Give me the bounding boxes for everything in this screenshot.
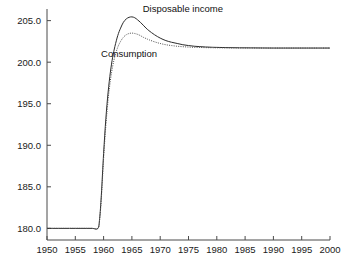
y-tick-label: 195.0 [17, 98, 41, 109]
x-tick-label: 1990 [263, 244, 284, 255]
series-line-disposable-income [47, 17, 330, 229]
y-tick-label: 185.0 [17, 181, 41, 192]
x-tick-label: 2000 [319, 244, 340, 255]
y-tick-label: 205.0 [17, 15, 41, 26]
x-tick-label: 1985 [235, 244, 256, 255]
chart-container: 180.0185.0190.0195.0200.0205.0 195019551… [0, 0, 349, 269]
y-tick-label: 190.0 [17, 140, 41, 151]
annotation-label: Disposable income [143, 3, 223, 14]
y-axis-tick-labels: 180.0185.0190.0195.0200.0205.0 [17, 15, 41, 234]
x-tick-label: 1950 [36, 244, 57, 255]
y-tick-label: 200.0 [17, 57, 41, 68]
line-chart: 180.0185.0190.0195.0200.0205.0 195019551… [0, 0, 349, 269]
y-axis-ticks [47, 21, 51, 229]
series-line-consumption [47, 33, 330, 229]
y-tick-label: 180.0 [17, 223, 41, 234]
x-tick-label: 1965 [121, 244, 142, 255]
x-tick-label: 1975 [178, 244, 199, 255]
x-tick-label: 1960 [93, 244, 114, 255]
x-tick-label: 1995 [291, 244, 312, 255]
annotation-label: Consumption [101, 48, 157, 59]
x-tick-label: 1955 [65, 244, 86, 255]
x-tick-label: 1980 [206, 244, 227, 255]
plot-area: 180.0185.0190.0195.0200.0205.0 195019551… [17, 3, 340, 255]
x-axis-tick-labels: 1950195519601965197019751980198519901995… [36, 244, 340, 255]
data-series-group [47, 17, 330, 229]
x-axis-ticks [47, 236, 330, 240]
x-tick-label: 1970 [150, 244, 171, 255]
